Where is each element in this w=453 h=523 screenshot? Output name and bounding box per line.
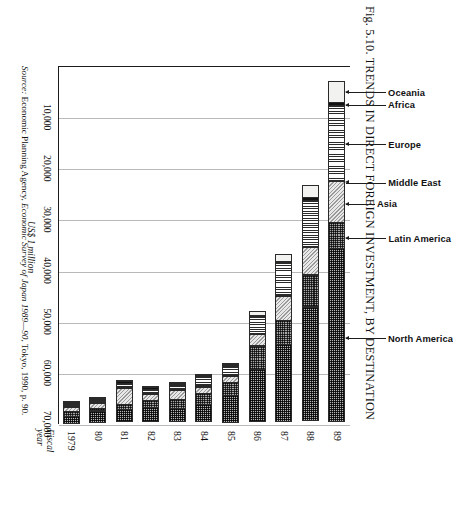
category-tick-82: 82 [145, 431, 156, 441]
bar-segment-north-america[interactable] [142, 407, 159, 422]
value-tick-60000: 60,000 [42, 360, 53, 386]
callout-leader-line [346, 183, 386, 184]
bar-segment-north-america[interactable] [89, 411, 106, 423]
bar-row[interactable] [63, 401, 80, 423]
callout-label: Europe [388, 140, 421, 150]
category-tick-86: 86 [252, 431, 263, 441]
category-tick-1979: 1979 [66, 431, 77, 451]
bar-segment-asia[interactable] [328, 181, 345, 223]
bar-segment-north-america[interactable] [169, 408, 186, 422]
bar-row[interactable] [142, 386, 159, 422]
callout-arrow-icon [345, 103, 349, 107]
callout-leader-line [346, 204, 375, 205]
bar-segment-north-america[interactable] [196, 404, 213, 422]
bar-segment-north-america[interactable] [302, 307, 319, 421]
bar-segment-latin-america[interactable] [249, 346, 266, 370]
bar-segment-asia[interactable] [116, 388, 133, 405]
category-tick-80: 80 [92, 431, 103, 441]
source-title-italic: Economic Survey of Japan 1989—90 [20, 203, 30, 339]
plot-area: OceaniaAfricaEuropeMiddle EastAsiaLatin … [58, 66, 350, 424]
plot-area-wrapper: OceaniaAfricaEuropeMiddle EastAsiaLatin … [58, 66, 350, 424]
category-axis-label-line2: year [34, 429, 44, 452]
callout-arrow-icon [345, 202, 349, 206]
category-tick-83: 83 [172, 431, 183, 441]
bar-segment-latin-america[interactable] [328, 222, 345, 249]
figure-title: Fig. 5.10. TRENDS IN DIRECT FOREIGN INVE… [362, 6, 377, 420]
bar-segment-oceania[interactable] [328, 81, 345, 103]
callout-leader-line [346, 144, 386, 145]
callout-label: North America [388, 334, 453, 344]
bar-segment-asia[interactable] [302, 247, 319, 275]
callout-leader-line [346, 105, 386, 106]
source-lead: Source: [20, 66, 30, 94]
callout-leader-line [346, 238, 386, 239]
bar-segment-europe[interactable] [275, 262, 292, 296]
value-tick-10000: 10,000 [42, 104, 53, 130]
category-axis-label-line1: Fiscal [44, 429, 54, 452]
bar-row[interactable] [169, 382, 186, 421]
bar-row[interactable] [328, 81, 345, 421]
value-tick-30000: 30,000 [42, 206, 53, 232]
category-tick-85: 85 [225, 431, 236, 441]
bar-segment-oceania[interactable] [302, 185, 319, 199]
gridline-70000 [59, 425, 350, 426]
callout-leader-line [346, 338, 386, 339]
source-tail: , Tokyo, 1990, p. 90. [20, 339, 30, 415]
bar-segment-latin-america[interactable] [275, 320, 292, 345]
bar-row[interactable] [89, 397, 106, 423]
category-tick-87: 87 [278, 431, 289, 441]
category-axis-label: Fiscal year [34, 429, 54, 452]
callout-arrow-icon [345, 236, 349, 240]
callout-arrow-icon [345, 336, 349, 340]
bar-segment-latin-america[interactable] [222, 382, 239, 395]
bar-segment-asia[interactable] [275, 296, 292, 321]
bar-series-group [59, 67, 350, 424]
bar-segment-north-america[interactable] [222, 395, 239, 423]
category-tick-81: 81 [119, 431, 130, 441]
bar-segment-europe[interactable] [328, 105, 345, 181]
category-tick-89: 89 [331, 431, 342, 441]
bar-segment-north-america[interactable] [328, 248, 345, 421]
callout-leader-line [346, 92, 386, 93]
category-tick-88: 88 [305, 431, 316, 441]
bar-segment-north-america[interactable] [63, 416, 80, 423]
callout-label: Latin America [388, 234, 450, 244]
bar-row[interactable] [249, 311, 266, 423]
callout-arrow-icon [345, 142, 349, 146]
bar-segment-europe[interactable] [249, 316, 266, 334]
bar-segment-north-america[interactable] [116, 409, 133, 422]
callout-label: Asia [377, 199, 397, 209]
callout-label: Africa [388, 100, 415, 110]
value-tick-40000: 40,000 [42, 257, 53, 283]
callout-label: Oceania [388, 88, 425, 98]
bar-segment-north-america[interactable] [275, 344, 292, 423]
bar-segment-asia[interactable] [249, 334, 266, 346]
bar-row[interactable] [302, 185, 319, 421]
callout-label: Middle East [388, 178, 441, 188]
source-note: Source: Economic Planning Agency, Econom… [20, 66, 30, 415]
bar-segment-europe[interactable] [302, 200, 319, 247]
value-tick-20000: 20,000 [42, 155, 53, 181]
bar-row[interactable] [196, 374, 213, 422]
callout-arrow-icon [345, 180, 349, 184]
category-tick-84: 84 [199, 431, 210, 441]
source-body: Economic Planning Agency, [20, 94, 30, 203]
bar-row[interactable] [222, 363, 239, 424]
value-tick-50000: 50,000 [42, 309, 53, 335]
bar-segment-north-america[interactable] [249, 369, 266, 422]
callout-arrow-icon [345, 90, 349, 94]
bar-row[interactable] [275, 254, 292, 422]
bar-segment-latin-america[interactable] [302, 275, 319, 308]
bar-row[interactable] [116, 380, 133, 422]
